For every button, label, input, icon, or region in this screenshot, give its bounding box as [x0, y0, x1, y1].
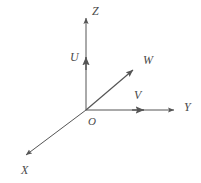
w-vector-label: W — [143, 54, 153, 66]
axes-drawing — [0, 0, 201, 183]
origin-label: O — [88, 116, 96, 127]
v-vector-label: V — [134, 89, 141, 101]
x-axis-line — [26, 110, 86, 155]
coordinate-axes-diagram: Z Y X U V W O — [0, 0, 201, 183]
z-axis-label: Z — [92, 5, 99, 17]
w-vector-line — [86, 70, 133, 110]
y-axis-label: Y — [184, 101, 191, 113]
u-vector-label: U — [70, 51, 79, 63]
x-axis-label: X — [21, 164, 28, 176]
